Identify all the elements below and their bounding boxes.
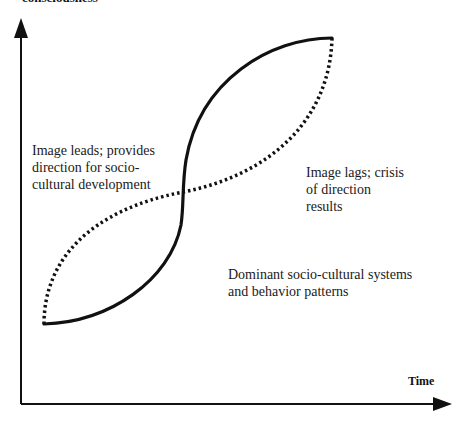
right-annotation-line: of direction xyxy=(306,181,404,198)
right-annotation-line: Image lags; crisis xyxy=(306,164,404,181)
left-annotation-line: direction for socio- xyxy=(32,159,155,176)
right-annotation: Image lags; crisis of direction results xyxy=(306,164,404,215)
bottom-annotation-line: Dominant socio-cultural systems xyxy=(228,266,412,283)
bottom-annotation-line: and behavior patterns xyxy=(228,283,412,300)
left-annotation-line: cultural development xyxy=(32,176,155,193)
y-axis-arrow-icon xyxy=(14,18,28,38)
bottom-annotation: Dominant socio-cultural systems and beha… xyxy=(228,266,412,300)
x-axis-label: Time xyxy=(408,374,434,389)
left-annotation-line: Image leads; provides xyxy=(32,142,155,159)
right-annotation-line: results xyxy=(306,198,404,215)
x-axis-arrow-icon xyxy=(433,397,452,411)
left-annotation: Image leads; provides direction for soci… xyxy=(32,142,155,193)
